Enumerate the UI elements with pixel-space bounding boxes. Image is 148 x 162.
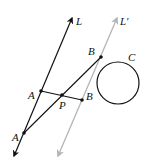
geometry-diagram: L L′ B C A P B A — [0, 0, 148, 162]
label-line-l: L — [75, 15, 82, 27]
label-point-a-bottom: A — [11, 131, 19, 143]
point-p — [60, 93, 64, 97]
circle-c — [97, 62, 139, 104]
line-l-prime — [58, 18, 117, 156]
label-point-b-mid: B — [86, 90, 93, 102]
line-l — [14, 18, 72, 156]
label-circle-c: C — [128, 51, 136, 63]
point-a-bottom — [22, 131, 26, 135]
point-a-mid — [39, 89, 43, 93]
label-point-p: P — [58, 99, 66, 111]
point-b-top — [99, 55, 103, 59]
label-point-a-mid: A — [27, 89, 35, 101]
label-line-l-prime: L′ — [119, 15, 129, 27]
point-b-mid — [80, 98, 84, 102]
label-point-b-top: B — [88, 45, 95, 57]
